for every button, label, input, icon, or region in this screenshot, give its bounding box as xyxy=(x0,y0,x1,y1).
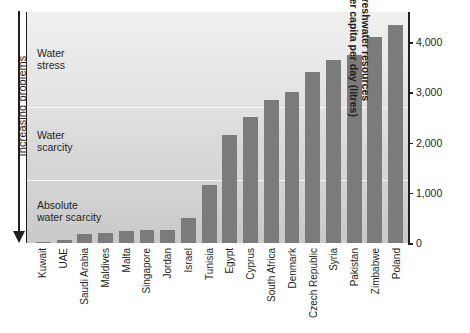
y-axis-tick xyxy=(408,42,413,44)
bar[interactable] xyxy=(388,25,403,243)
x-axis-label-slot: Maldives xyxy=(94,246,115,332)
x-axis-label-slot: Poland xyxy=(385,246,406,332)
y-axis-tick-label: 2,000 xyxy=(416,137,442,149)
x-axis-label-slot: UAE xyxy=(53,246,74,332)
x-axis-label: Pakistan xyxy=(349,248,360,286)
x-axis-label: Jordan xyxy=(162,248,173,279)
bar[interactable] xyxy=(264,100,279,243)
x-axis-label-slot: Kuwait xyxy=(32,246,53,332)
bar[interactable] xyxy=(181,218,196,243)
x-axis-label: Denmark xyxy=(286,248,297,289)
x-axis-label: Saudi Arabia xyxy=(78,248,89,305)
x-axis-label: Cyprus xyxy=(245,248,256,280)
bar[interactable] xyxy=(77,234,92,243)
arrow-down-icon xyxy=(13,231,25,243)
x-axis-label-slot: Pakistan xyxy=(344,246,365,332)
bar[interactable] xyxy=(222,135,237,243)
bar-slot xyxy=(240,12,261,243)
x-axis-label: Malta xyxy=(120,248,131,272)
x-axis-label: Poland xyxy=(390,248,401,279)
bar[interactable] xyxy=(305,72,320,243)
y-axis-tick-label: 3,000 xyxy=(416,86,442,98)
y-axis-title: Freshwater resources per capita per day … xyxy=(348,0,372,192)
bar-slot xyxy=(261,12,282,243)
y-axis-tick xyxy=(408,143,413,145)
bar[interactable] xyxy=(285,92,300,243)
bar-slot xyxy=(54,12,75,243)
y-axis-tick xyxy=(408,193,413,195)
bar[interactable] xyxy=(140,230,155,243)
bar-slot xyxy=(95,12,116,243)
y-axis-tick-label: 4,000 xyxy=(416,36,442,48)
y-axis-tick xyxy=(408,92,413,94)
x-axis-label: Zimbabwe xyxy=(369,248,380,294)
bar[interactable] xyxy=(243,117,258,243)
x-axis-label-slot: Cyprus xyxy=(240,246,261,332)
bar-slot xyxy=(74,12,95,243)
x-axis-label-slot: South Africa xyxy=(261,246,282,332)
x-axis-label-slot: Syria xyxy=(323,246,344,332)
bar-slot xyxy=(178,12,199,243)
x-axis-labels: KuwaitUAESaudi ArabiaMaldivesMaltaSingap… xyxy=(26,246,408,332)
bar[interactable] xyxy=(326,60,341,243)
x-axis-label-slot: Zimbabwe xyxy=(365,246,386,332)
bar-slot xyxy=(116,12,137,243)
bar-slot xyxy=(157,12,178,243)
bar[interactable] xyxy=(98,233,113,243)
x-axis-label-slot: Tunisia xyxy=(198,246,219,332)
bar[interactable] xyxy=(36,242,51,243)
x-axis-label: Israel xyxy=(182,248,193,272)
bar-slot xyxy=(199,12,220,243)
x-axis-label: Syria xyxy=(328,248,339,271)
y-axis-tick-label: 1,000 xyxy=(416,187,442,199)
x-axis-label-slot: Czech Republic xyxy=(302,246,323,332)
x-axis-label-slot: Egypt xyxy=(219,246,240,332)
x-axis-label-slot: Denmark xyxy=(281,246,302,332)
bar-slot xyxy=(219,12,240,243)
increasing-problems-axis: Increasing problems xyxy=(0,0,26,255)
bar[interactable] xyxy=(202,185,217,243)
y-axis-tick xyxy=(408,243,413,245)
x-axis-label: Tunisia xyxy=(203,248,214,280)
bar[interactable] xyxy=(57,240,72,243)
x-axis-label: Kuwait xyxy=(37,248,48,278)
bar[interactable] xyxy=(119,231,134,243)
x-axis-label-slot: Singapore xyxy=(136,246,157,332)
x-axis-label: Czech Republic xyxy=(307,248,318,318)
bar-slot xyxy=(282,12,303,243)
bar-slot xyxy=(137,12,158,243)
x-axis-label-slot: Saudi Arabia xyxy=(74,246,95,332)
bar-slot xyxy=(302,12,323,243)
y-axis-line xyxy=(408,12,410,243)
x-axis-label: UAE xyxy=(58,248,69,269)
bar-slot xyxy=(33,12,54,243)
bar-slot xyxy=(323,12,344,243)
bar[interactable] xyxy=(160,230,175,243)
x-axis-label-slot: Israel xyxy=(177,246,198,332)
y-axis-tick-label: 0 xyxy=(416,237,422,249)
bar-slot xyxy=(385,12,406,243)
water-scarcity-chart: Increasing problems Water stress Water s… xyxy=(0,0,470,333)
x-axis-label: Singapore xyxy=(141,248,152,294)
x-axis-label: Maldives xyxy=(99,248,110,287)
x-axis-label: Egypt xyxy=(224,248,235,274)
x-axis-label: South Africa xyxy=(265,248,276,302)
x-axis-label-slot: Jordan xyxy=(157,246,178,332)
x-axis-label-slot: Malta xyxy=(115,246,136,332)
